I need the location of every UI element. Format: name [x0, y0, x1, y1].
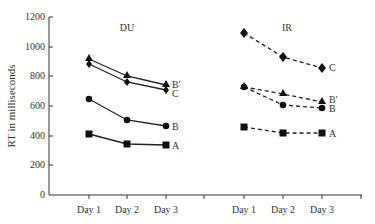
y-tick-0: 0: [40, 189, 45, 200]
y-tick-1000: 1000: [25, 41, 45, 52]
panel-title-du: DU: [120, 22, 135, 33]
diamond-marker: [86, 60, 92, 68]
diamond-marker: [240, 28, 248, 38]
diamond-marker: [124, 78, 130, 86]
ir-markers: [240, 28, 326, 137]
y-tick-800: 800: [30, 70, 45, 81]
y-tick-200: 200: [30, 159, 45, 170]
panel-title-ir: IR: [282, 22, 292, 33]
ir-label-b: B: [329, 103, 336, 114]
y-tick-labels: 0 200 400 600 800 1000 1200: [25, 11, 45, 200]
ir-label-c: C: [329, 62, 336, 73]
ir-label-a: A: [329, 128, 337, 139]
x-tick-ir-day1: Day 1: [232, 204, 256, 215]
triangle-marker: [279, 89, 287, 96]
x-tick-ir-day3: Day 3: [310, 204, 334, 215]
circle-marker: [163, 123, 170, 130]
x-axis: [49, 195, 362, 199]
x-tick-labels: Day 1 Day 2 Day 3 Day 1 Day 2 Day 3: [77, 204, 334, 215]
triangle-marker: [85, 54, 93, 61]
square-marker: [241, 124, 248, 131]
circle-marker: [319, 105, 326, 112]
square-marker: [319, 130, 326, 137]
x-tick-du-day3: Day 3: [154, 204, 178, 215]
du-label-c: C: [172, 88, 179, 99]
x-tick-du-day2: Day 2: [115, 204, 139, 215]
rt-line-chart: 0 200 400 600 800 1000 1200 RT in millis…: [0, 0, 375, 224]
diamond-marker: [163, 86, 169, 94]
circle-marker: [280, 102, 287, 109]
x-tick-du-day1: Day 1: [77, 204, 101, 215]
circle-marker: [86, 96, 93, 103]
ir-line-c: [244, 33, 322, 68]
diamond-marker: [318, 63, 326, 73]
y-tick-1200: 1200: [25, 11, 45, 22]
y-tick-400: 400: [30, 130, 45, 141]
ir-series-labels: C B' B A: [329, 62, 338, 139]
triangle-marker: [318, 97, 326, 104]
y-tick-600: 600: [30, 100, 45, 111]
square-marker: [280, 130, 287, 137]
square-marker: [124, 141, 131, 148]
ir-series: [244, 33, 322, 133]
x-tick-ir-day2: Day 2: [271, 204, 295, 215]
y-axis: [49, 17, 53, 195]
circle-marker: [124, 117, 131, 124]
square-marker: [163, 142, 170, 149]
du-label-b: B: [172, 121, 179, 132]
circle-marker: [241, 84, 248, 91]
diamond-marker: [279, 52, 287, 62]
square-marker: [86, 131, 93, 138]
y-axis-label: RT in milliseconds: [5, 65, 17, 148]
du-series-labels: B' C B A: [172, 79, 181, 151]
du-label-a: A: [172, 140, 180, 151]
triangle-marker: [162, 80, 170, 87]
